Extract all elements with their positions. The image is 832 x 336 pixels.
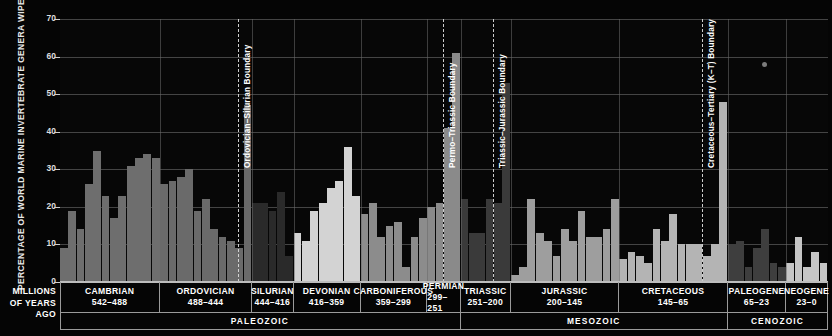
y-tick-label: 10 <box>28 239 56 248</box>
extinction-intensity-chart: PERCENTAGE OF WORLD MARINE INVERTEBRATE … <box>0 0 832 336</box>
period-cell: JURASSIC200–145 <box>511 282 620 312</box>
bar <box>569 241 577 282</box>
bar <box>653 229 661 282</box>
period-range: 488–444 <box>188 297 224 308</box>
period-range: 200–145 <box>547 297 583 308</box>
bar <box>302 241 310 282</box>
bar <box>110 218 118 282</box>
period-group <box>786 19 828 282</box>
y-tick-label: 70 <box>28 14 56 23</box>
bar <box>227 241 235 282</box>
bar <box>202 199 210 282</box>
bar <box>686 244 694 282</box>
period-cell: ORDOVICIAN488–444 <box>160 282 252 312</box>
period-range: 145–65 <box>658 297 688 308</box>
boundary-line <box>493 19 494 282</box>
bar <box>327 188 335 282</box>
bar <box>536 233 544 282</box>
bar <box>719 102 727 282</box>
bar <box>603 229 611 282</box>
bar <box>185 169 193 282</box>
bar <box>745 267 753 282</box>
period-separator <box>160 19 161 282</box>
period-cell: CAMBRIAN542–488 <box>60 282 160 312</box>
bar <box>260 203 268 282</box>
bar <box>411 237 419 282</box>
bar <box>786 263 794 282</box>
bar <box>386 226 394 282</box>
period-cell: DEVONIAN416–359 <box>294 282 361 312</box>
bar <box>419 218 427 282</box>
y-tick-label: 60 <box>28 52 56 61</box>
period-group <box>60 19 160 282</box>
period-group <box>361 19 428 282</box>
bar <box>611 199 619 282</box>
bar <box>553 256 561 282</box>
bar <box>319 203 327 282</box>
bar <box>519 267 527 282</box>
boundary-label: Permo–Triassic Boundary <box>448 62 457 168</box>
period-cell: CARBONIFEROUS359–299 <box>361 282 428 312</box>
period-name: PERMIAN <box>423 281 465 292</box>
period-range: 542–488 <box>92 297 128 308</box>
period-range: 23–0 <box>796 297 816 308</box>
bar <box>703 256 711 282</box>
bar <box>352 196 360 282</box>
era-name: MESOZOIC <box>567 316 620 326</box>
bar <box>143 154 151 282</box>
bar <box>803 267 811 282</box>
period-cell: CRETACEOUS145–65 <box>619 282 728 312</box>
bar <box>586 237 594 282</box>
period-name: NEOGENE <box>784 286 829 297</box>
bar <box>594 237 602 282</box>
era-name: CENOZOIC <box>751 316 804 326</box>
bar <box>68 211 76 282</box>
bar <box>795 237 803 282</box>
bar <box>344 147 352 282</box>
bar <box>310 211 318 282</box>
x-axis-title-line1: MILLIONS <box>0 286 56 298</box>
period-group <box>511 19 620 282</box>
period-range: 251–200 <box>467 297 503 308</box>
bar <box>102 196 110 282</box>
period-cell: NEOGENE23–0 <box>786 282 828 312</box>
period-range: 359–299 <box>376 297 412 308</box>
bar <box>761 229 769 282</box>
y-tick-label: 20 <box>28 202 56 211</box>
period-range: 416–359 <box>309 297 345 308</box>
bar <box>461 199 469 282</box>
boundary-line <box>443 19 444 282</box>
period-cell: PERMIAN299–251 <box>427 282 460 312</box>
bar <box>427 207 435 282</box>
boundary-label: Ordovician–Silurian Boundary <box>243 45 252 168</box>
bar <box>269 211 277 282</box>
y-tick-label: 40 <box>28 127 56 136</box>
period-name: SILURIAN <box>251 286 294 297</box>
bar <box>235 248 243 282</box>
period-axis-table: CAMBRIAN542–488ORDOVICIAN488–444SILURIAN… <box>60 282 828 330</box>
period-name: CRETACEOUS <box>642 286 705 297</box>
bar <box>135 158 143 282</box>
period-name: JURASSIC <box>542 286 588 297</box>
bar <box>678 244 686 282</box>
bar <box>477 233 485 282</box>
bar <box>402 267 410 282</box>
period-separator <box>619 19 620 282</box>
bar <box>294 233 302 282</box>
bar <box>561 229 569 282</box>
bar <box>778 267 786 282</box>
period-separator <box>728 19 729 282</box>
bar <box>753 248 761 282</box>
period-name: PALEOGENE <box>729 286 785 297</box>
bar <box>277 192 285 282</box>
period-separator <box>511 19 512 282</box>
period-separator <box>294 19 295 282</box>
period-separator <box>461 19 462 282</box>
bar <box>644 263 652 282</box>
bar <box>169 181 177 282</box>
bar <box>628 252 636 282</box>
era-cell: MESOZOIC <box>461 313 728 329</box>
bar <box>152 158 160 282</box>
bar <box>770 263 778 282</box>
bar <box>394 222 402 282</box>
